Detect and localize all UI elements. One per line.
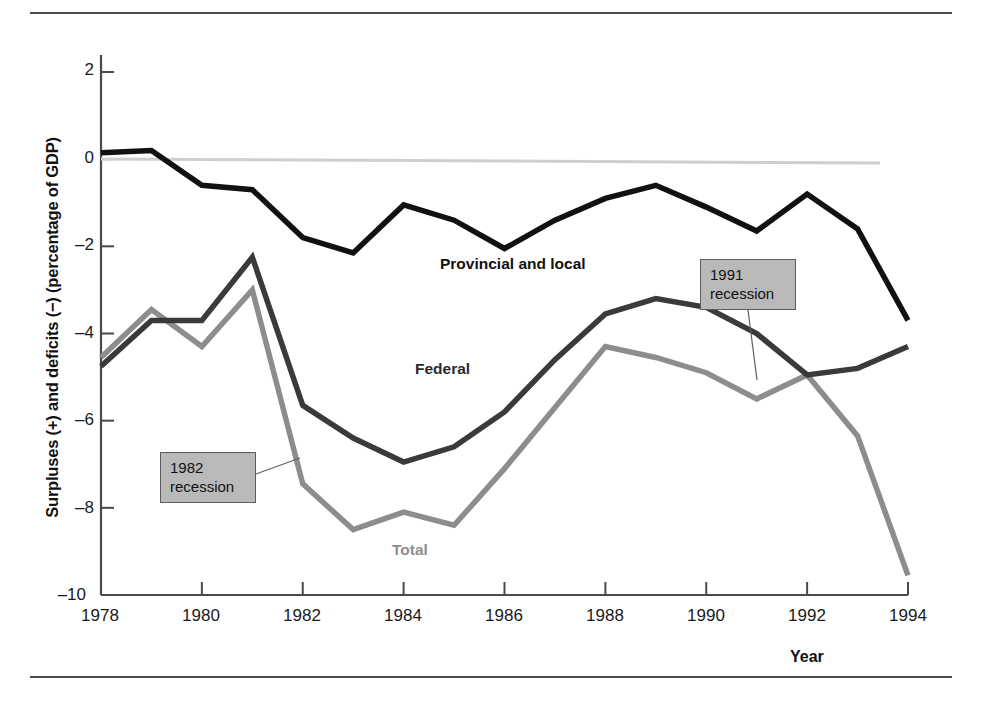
series-label-provincial: Provincial and local [440, 255, 586, 273]
annotation-1991-word: recession [710, 284, 786, 303]
series-label-total: Total [392, 541, 428, 559]
annotation-1982-year: 1982 [170, 458, 246, 477]
annotation-1991-year: 1991 [710, 265, 786, 284]
series-label-federal: Federal [415, 360, 470, 378]
annotation-1982-word: recession [170, 477, 246, 496]
series-line-total [101, 290, 908, 575]
callout-leader-line-1982 [256, 458, 300, 474]
annotation-1991-recession: 1991 recession [700, 259, 796, 310]
y-axis-ticks [101, 72, 114, 508]
line-chart-plot [0, 0, 982, 702]
x-axis-ticks [101, 582, 908, 595]
callout-leader-line-1991 [748, 310, 757, 380]
zero-reference-line [101, 159, 880, 163]
annotation-1982-recession: 1982 recession [160, 452, 256, 503]
figure-container: Surpluses (+) and deficits (−) (percenta… [0, 0, 982, 702]
